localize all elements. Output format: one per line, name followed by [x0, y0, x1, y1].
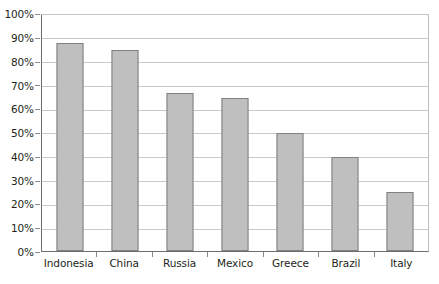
x-axis-labels: Indonesia China Russia Mexico Greece Bra… [41, 256, 429, 278]
bar-slot-china [97, 15, 152, 251]
y-axis-tick-mark [35, 14, 40, 15]
bar-slot-mexico [207, 15, 262, 251]
bar-slot-greece [263, 15, 318, 251]
y-axis-tick-mark [35, 204, 40, 205]
bar-mexico [221, 98, 248, 251]
bar-china [111, 50, 138, 251]
y-axis-tick-label: 100% [0, 9, 34, 19]
x-axis-label-greece: Greece [263, 256, 318, 270]
bar-italy [387, 192, 414, 251]
y-axis-tick-label: 50% [0, 128, 34, 138]
y-axis-tick-mark [35, 181, 40, 182]
bar-indonesia [56, 43, 83, 251]
x-axis-label-brazil: Brazil [318, 256, 373, 270]
y-axis-tick-label: 10% [0, 223, 34, 233]
bar-slot-russia [152, 15, 207, 251]
bar-series [42, 15, 428, 251]
y-axis-tick-mark [35, 62, 40, 63]
bar-greece [277, 133, 304, 251]
plot-area [41, 14, 429, 252]
y-axis-tick-label: 30% [0, 176, 34, 186]
bar-chart: 100% 90% 80% 70% 60% 50% 40% 30% 20% 10%… [0, 0, 439, 284]
x-axis-label-russia: Russia [152, 256, 207, 270]
y-axis-tick-mark [35, 228, 40, 229]
x-axis-label-mexico: Mexico [207, 256, 262, 270]
x-axis-label-italy: Italy [374, 256, 429, 270]
y-axis-tick-mark [35, 109, 40, 110]
y-axis-tick-label: 20% [0, 199, 34, 209]
y-axis-tick-label: 90% [0, 33, 34, 43]
y-axis-tick-mark [35, 252, 40, 253]
y-axis-tick-mark [35, 38, 40, 39]
y-axis-tick-label: 60% [0, 104, 34, 114]
y-axis-tick-mark [35, 133, 40, 134]
bar-brazil [332, 157, 359, 251]
y-axis-tick-mark [35, 85, 40, 86]
y-axis-tick-label: 70% [0, 81, 34, 91]
bar-slot-indonesia [42, 15, 97, 251]
y-axis-tick-label: 40% [0, 152, 34, 162]
y-axis-tick-label: 80% [0, 57, 34, 67]
y-axis-labels: 100% 90% 80% 70% 60% 50% 40% 30% 20% 10%… [0, 0, 34, 284]
bar-slot-italy [373, 15, 428, 251]
x-axis-label-indonesia: Indonesia [41, 256, 96, 270]
y-axis-tick-mark [35, 157, 40, 158]
x-axis-label-china: China [96, 256, 151, 270]
bar-russia [166, 93, 193, 251]
y-axis-tick-label: 0% [0, 247, 34, 257]
bar-slot-brazil [318, 15, 373, 251]
